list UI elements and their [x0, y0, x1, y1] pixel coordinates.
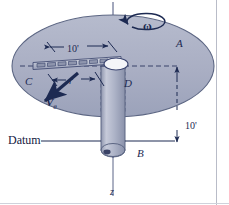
- label-shaft-base-B: B: [137, 148, 144, 159]
- label-velocity-v-theta: Vθ: [46, 97, 57, 111]
- label-angular-velocity-omega: ω: [143, 20, 152, 32]
- label-radius-r: r: [69, 76, 73, 86]
- page-bottom-line: [0, 203, 229, 204]
- label-datum: Datum: [8, 134, 41, 146]
- label-axis-z: z: [110, 187, 114, 197]
- collar-D: [104, 58, 128, 70]
- label-disk-A: A: [176, 38, 183, 49]
- label-collar-D: D: [124, 78, 132, 89]
- page-margin-line: [216, 0, 217, 205]
- shaft-base-bearing-dot: [103, 150, 110, 155]
- label-dimension-radial-10ft: 10': [67, 44, 79, 54]
- figure-canvas: [0, 0, 229, 205]
- velocity-subscript: θ: [53, 103, 56, 111]
- diagram-svg: [0, 0, 229, 205]
- label-dimension-vertical-10ft: 10': [185, 121, 197, 131]
- label-rod-end-C: C: [25, 76, 32, 87]
